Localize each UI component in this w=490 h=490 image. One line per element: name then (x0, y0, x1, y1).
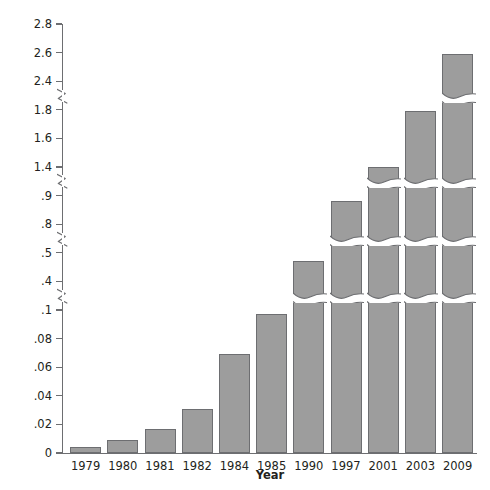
y-tick: .8 (56, 224, 62, 225)
y-tick: .5 (56, 252, 62, 253)
bar-break-icon (442, 292, 474, 303)
bar-break-icon (442, 92, 474, 103)
bar-break-icon (404, 292, 436, 303)
y-tick-label: .1 (41, 303, 52, 317)
y-tick-label: .02 (34, 417, 52, 431)
y-tick-label: 0 (45, 446, 52, 460)
bar[interactable] (219, 354, 250, 453)
y-tick: .1 (56, 309, 62, 310)
y-tick-label: .4 (41, 274, 52, 288)
bar-chart: Food Distribution (billions of pounds) 2… (0, 0, 490, 490)
y-tick: .9 (56, 195, 62, 196)
bar-break-icon (367, 235, 399, 246)
bar-break-icon (367, 292, 399, 303)
axis-break-mask (62, 90, 64, 102)
y-tick-label: .8 (41, 217, 52, 231)
y-tick-label: .06 (34, 360, 52, 374)
axis-break-mask (62, 233, 64, 245)
x-axis-line (62, 453, 477, 454)
y-tick: 1.8 (56, 109, 62, 110)
bar-break-icon (404, 177, 436, 188)
bar[interactable] (145, 429, 176, 453)
bar[interactable] (70, 447, 101, 453)
y-tick: 1.6 (56, 138, 62, 139)
y-tick-label: 2.6 (34, 46, 52, 60)
bar[interactable] (293, 261, 324, 453)
y-tick: 2.6 (56, 52, 62, 53)
y-tick-label: .04 (34, 389, 52, 403)
y-tick-label: .08 (34, 332, 52, 346)
y-tick: .04 (56, 395, 62, 396)
y-tick: 0 (56, 452, 62, 453)
bar[interactable] (182, 409, 213, 453)
y-tick: .08 (56, 338, 62, 339)
y-tick: .4 (56, 281, 62, 282)
bar[interactable] (405, 111, 436, 453)
y-tick-label: 1.4 (34, 160, 52, 174)
bar-break-icon (330, 292, 362, 303)
y-tick-label: .5 (41, 246, 52, 260)
y-axis-break-icon (57, 88, 69, 104)
y-tick: .06 (56, 367, 62, 368)
y-tick: 2.4 (56, 81, 62, 82)
y-axis-break-icon (57, 288, 69, 304)
y-axis-break-icon (57, 231, 69, 247)
bar-break-icon (442, 177, 474, 188)
bar[interactable] (442, 54, 473, 453)
y-tick-label: .9 (41, 189, 52, 203)
axis-break-mask (62, 175, 64, 187)
y-tick-label: 2.8 (34, 17, 52, 31)
y-tick-label: 1.8 (34, 103, 52, 117)
axis-break-mask (62, 290, 64, 302)
y-tick: 1.4 (56, 166, 62, 167)
bar[interactable] (256, 314, 287, 453)
x-axis-title: Year (60, 468, 480, 482)
y-axis-break-icon (57, 173, 69, 189)
y-tick-label: 2.4 (34, 74, 52, 88)
bar-break-icon (293, 292, 325, 303)
bar-break-icon (404, 235, 436, 246)
bar-break-icon (367, 177, 399, 188)
bar-break-icon (442, 235, 474, 246)
bar[interactable] (368, 167, 399, 453)
y-tick: .02 (56, 424, 62, 425)
y-tick: 2.8 (56, 23, 62, 24)
bar[interactable] (107, 440, 138, 453)
y-tick-label: 1.6 (34, 131, 52, 145)
plot-area: 2.82.62.41.81.61.4.9.8.5.4.1.08.06.04.02… (62, 18, 480, 453)
bar-break-icon (330, 235, 362, 246)
bar[interactable] (331, 201, 362, 453)
